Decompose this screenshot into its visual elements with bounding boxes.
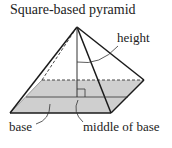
height-label: height	[117, 30, 150, 45]
base-label: base	[9, 119, 32, 134]
middle-of-base-label: middle of base	[83, 119, 160, 134]
pyramid-diagram: height base middle of base	[0, 0, 172, 148]
